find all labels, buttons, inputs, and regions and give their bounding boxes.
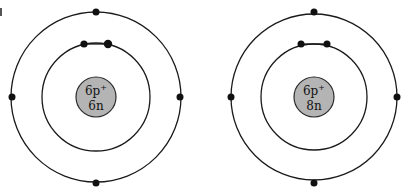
- electron: [104, 40, 112, 48]
- atom-left: 6p+ 6n: [9, 9, 184, 187]
- atom-right: 6p+ 8n: [228, 9, 401, 187]
- cropped-mark: [0, 8, 2, 16]
- electron: [298, 41, 305, 48]
- electron: [324, 41, 331, 48]
- nucleus-neutrons-label: 8n: [306, 99, 322, 113]
- electron: [80, 40, 87, 47]
- electron: [311, 180, 318, 187]
- electron: [311, 9, 318, 16]
- atom-diagram: 6p+ 6n 6p+ 8n: [0, 0, 408, 195]
- electron: [394, 94, 401, 101]
- electron: [93, 180, 100, 187]
- electron: [177, 94, 184, 101]
- electron: [228, 94, 235, 101]
- electron: [93, 9, 100, 16]
- nucleus-neutrons-label: 6n: [88, 99, 104, 113]
- electron: [9, 94, 16, 101]
